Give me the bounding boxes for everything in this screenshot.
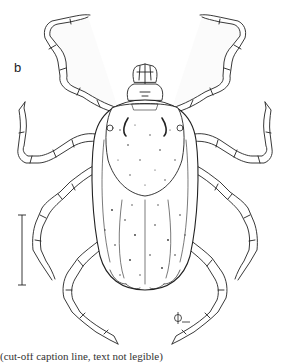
leg-1-right <box>172 15 246 113</box>
leg-2-left <box>18 102 100 163</box>
artist-monogram-icon <box>175 312 191 324</box>
capitulum <box>127 64 163 100</box>
figure-caption-partial: (cut-off caption line, text not legible) <box>0 353 290 364</box>
scale-bar <box>18 215 26 285</box>
tick-illustration <box>0 0 290 364</box>
leg-1-left <box>44 15 118 113</box>
leg-2-right <box>190 102 272 163</box>
